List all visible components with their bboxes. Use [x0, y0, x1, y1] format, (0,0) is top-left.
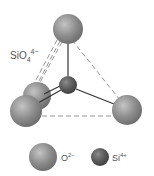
edge-top-backleft-a — [38, 42, 62, 86]
edge-top-right — [72, 40, 120, 100]
legend-silicon-label: Si4+ — [112, 152, 127, 163]
legend-oxygen-icon — [29, 143, 57, 171]
oxygen-atom-top — [53, 14, 83, 44]
formula-label: SiO44− — [10, 48, 39, 63]
legend-silicon-icon — [91, 148, 109, 166]
legend-oxygen-label: O2− — [61, 152, 75, 163]
oxygen-atom-right — [112, 95, 142, 125]
oxygen-atom-front-left — [10, 95, 42, 127]
silicate-tetrahedron-diagram: SiO44− O2− Si4+ — [0, 0, 154, 176]
legend: O2− Si4+ — [29, 143, 127, 171]
bond-si-right — [76, 89, 114, 104]
silicon-atom-center — [59, 76, 77, 94]
